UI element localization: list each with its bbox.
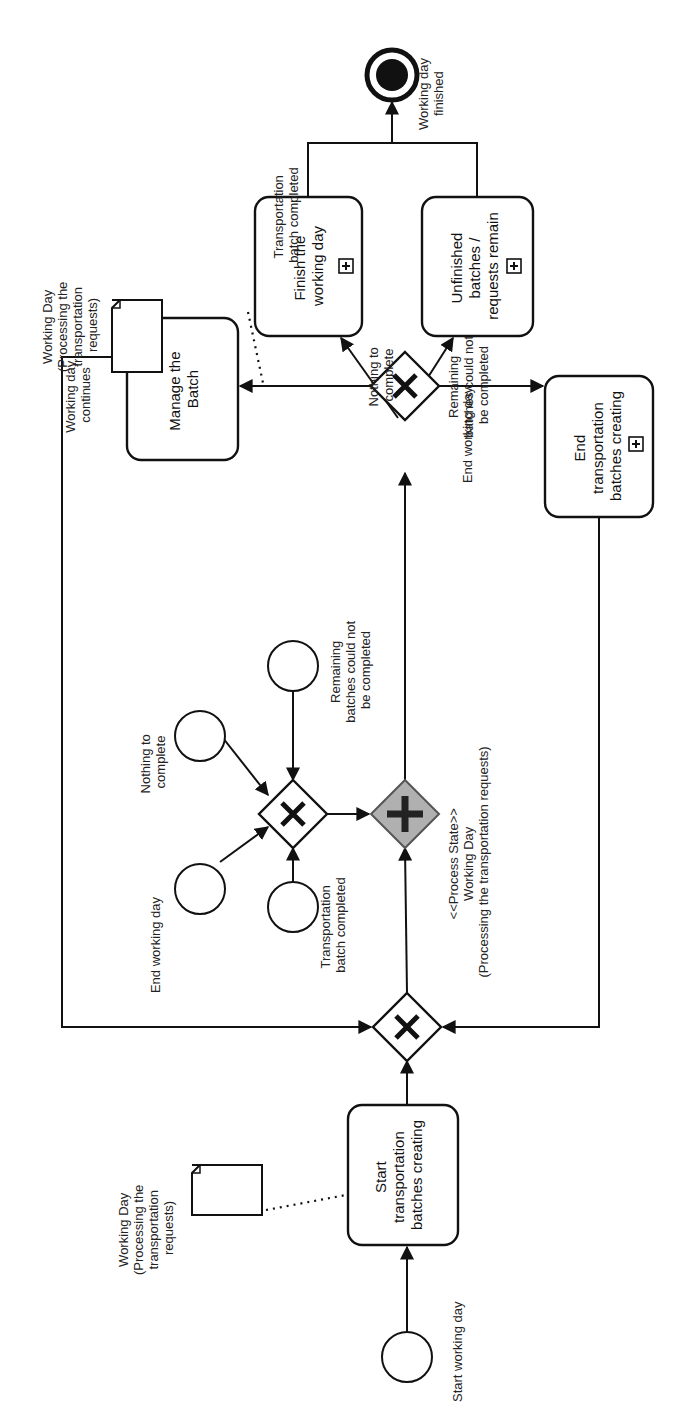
start-event-label: Start working day [450, 1301, 465, 1402]
event-remaining-batches[interactable] [268, 641, 318, 691]
gateway-parallel-process-state[interactable] [371, 780, 439, 848]
data-object-bottom[interactable] [192, 1165, 262, 1215]
subprocess-marker-icon[interactable] [507, 259, 521, 273]
event-end-working-day[interactable] [175, 864, 225, 914]
association-bottom [266, 1195, 346, 1210]
flow-label-remaining-batches: Remaining batches could not be completed [446, 332, 491, 438]
flow-label-working-day-continues: Working day continues [63, 357, 93, 433]
event-nothing-to-complete[interactable] [175, 711, 225, 761]
flow-label-nothing-to-complete: Nothing to complete [366, 344, 396, 407]
flow-merge-to-end [308, 143, 477, 197]
data-object-bottom-label: Working Day (Processing the transportati… [116, 1181, 176, 1275]
end-event-label: Working day finished [416, 54, 446, 130]
event-end-working-day-label: End working day [148, 896, 163, 993]
end-event-core [376, 59, 408, 91]
gateway-inner-xor[interactable] [259, 780, 327, 848]
data-object-top[interactable] [112, 300, 162, 372]
subprocess-marker-icon[interactable] [339, 259, 353, 273]
event-remaining-batches-label: Remaining batches could not be completed [328, 617, 373, 723]
event-batch-completed-label: Transportation batch completed [318, 877, 348, 972]
flow-gateway-to-parallel [405, 848, 407, 993]
flow-end-working-day-event [220, 827, 268, 862]
start-event[interactable] [382, 1332, 432, 1382]
flow-label-transportation-batch-completed: Transportation batch completed [271, 167, 301, 262]
parallel-gateway-label: <<Process State>> Working Day (Processin… [446, 746, 491, 977]
event-nothing-to-complete-label: Nothing to complete [138, 731, 168, 794]
gateway-bottom-xor[interactable] [373, 993, 441, 1061]
event-transportation-batch-completed[interactable] [268, 882, 318, 932]
bpmn-diagram: Start working day Working day finished S… [0, 0, 682, 1412]
flow-end-task-to-gateway [443, 517, 599, 1027]
subprocess-marker-icon[interactable] [629, 437, 643, 451]
